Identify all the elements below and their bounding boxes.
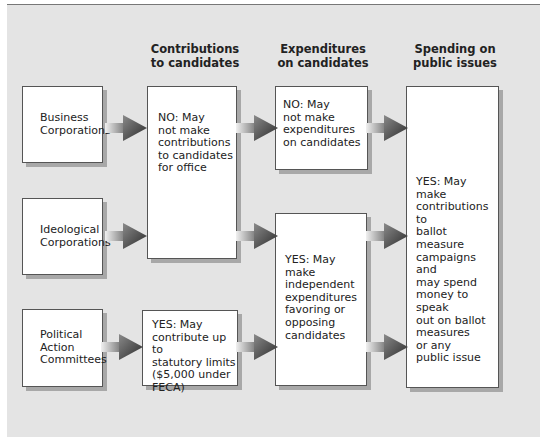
entity-pac: Political Action Committees [22, 309, 103, 387]
entity-label: Political Action Committees [40, 329, 102, 367]
arrow-right-icon [366, 223, 408, 249]
independent-expenditures-box: YES: May make independent expenditures f… [275, 213, 367, 386]
public-issues-box: YES: May make contributions to ballot me… [406, 86, 499, 388]
header-spending: Spending on public issues [400, 42, 510, 70]
outcome-text: NO: May not make contributions to candid… [158, 112, 236, 175]
business-expenditures-box: NO: May not make expenditures on candida… [275, 86, 368, 170]
arrow-right-icon [105, 223, 147, 249]
outcome-text: YES: May contribute up to statutory limi… [152, 319, 237, 395]
arrow-right-icon [101, 334, 143, 360]
corp-contributions-box: NO: May not make contributions to candid… [147, 86, 237, 259]
arrow-right-icon [366, 334, 408, 360]
outcome-text: YES: May make contributions to ballot me… [416, 176, 498, 365]
entity-label: Business Corporations [40, 112, 102, 137]
header-contributions: Contributions to candidates [140, 42, 250, 70]
arrow-right-icon [366, 115, 408, 141]
arrow-right-icon [236, 223, 278, 249]
header-expenditures: Expenditures on candidates [268, 42, 378, 70]
entity-label: Ideological Corporations [40, 224, 102, 249]
outcome-text: YES: May make independent expenditures f… [285, 254, 366, 342]
pac-contributions-box: YES: May contribute up to statutory limi… [142, 310, 238, 386]
arrow-right-icon [236, 115, 278, 141]
entity-ideological-corporations: Ideological Corporations [22, 198, 103, 275]
entity-business-corporations: Business Corporations [22, 86, 103, 163]
arrow-right-icon [105, 115, 147, 141]
outcome-text: NO: May not make expenditures on candida… [283, 99, 367, 149]
arrow-right-icon [236, 334, 278, 360]
